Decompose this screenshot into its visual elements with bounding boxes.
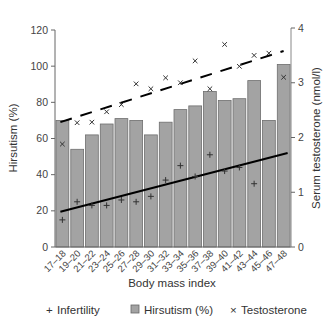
chart-canvas: 020406080100120 01234 17–1819–2021–2223–…: [0, 0, 335, 330]
left-tick-label: 40: [36, 168, 48, 180]
bar-37–38: [204, 92, 217, 248]
left-tick-label: 60: [36, 132, 48, 144]
testosterone-marker: [149, 86, 154, 91]
right-tick-label: 4: [298, 22, 304, 34]
testosterone-marker: [104, 109, 109, 114]
cross-icon: ×: [230, 304, 237, 316]
plus-icon: +: [46, 304, 53, 316]
x-axis-title: Body mass index: [128, 277, 216, 289]
x-axis-category-labels: 17–1819–2021–2223–2425–2627–2829–3031–32…: [41, 248, 289, 274]
testosterone-marker: [252, 53, 257, 58]
y-axis-title-left: Hirsutism (%): [7, 103, 19, 172]
right-tick-label: 3: [298, 76, 304, 88]
hirsutism-bars: [56, 64, 290, 247]
bar-23–24: [100, 124, 113, 247]
left-tick-label: 120: [30, 24, 48, 36]
right-tick-label: 1: [298, 186, 304, 198]
legend-item-infertility: + Infertility: [46, 304, 100, 316]
testosterone-marker: [75, 120, 80, 125]
testosterone-marker: [222, 42, 227, 47]
right-tick-label: 2: [298, 131, 304, 143]
legend-label-infertility: Infertility: [57, 304, 100, 316]
testosterone-marker: [90, 120, 95, 125]
left-tick-label: 80: [36, 96, 48, 108]
legend-item-hirsutism: Hirsutism (%): [131, 304, 213, 316]
bar-21–22: [86, 135, 99, 247]
left-tick-label: 0: [42, 241, 48, 253]
gray-square-icon: [131, 305, 139, 313]
bar-29–30: [145, 135, 158, 247]
bar-41–42: [233, 99, 246, 247]
legend: + Infertility Hirsutism (%) × Testostero…: [46, 304, 307, 316]
testosterone-marker: [193, 59, 198, 64]
legend-label-testosterone: Testosterone: [241, 304, 307, 316]
bar-17–18: [56, 120, 69, 247]
left-tick-label: 100: [30, 60, 48, 72]
right-y-axis: 01234: [291, 22, 304, 253]
bar-27–28: [130, 120, 143, 247]
bar-45–46: [263, 120, 276, 247]
legend-label-hirsutism: Hirsutism (%): [144, 304, 213, 316]
bar-19–20: [71, 149, 84, 247]
y-axis-title-right: Serum testosterone (nmol/l): [310, 67, 322, 209]
testosterone-marker: [208, 86, 213, 91]
testosterone-marker: [237, 64, 242, 69]
bar-25–26: [115, 119, 128, 247]
testosterone-marker: [163, 76, 168, 81]
bar-33–34: [174, 110, 187, 247]
testosterone-marker: [134, 82, 139, 87]
right-tick-label: 0: [298, 241, 304, 253]
left-tick-label: 20: [36, 204, 48, 216]
legend-item-testosterone: × Testosterone: [230, 304, 307, 316]
